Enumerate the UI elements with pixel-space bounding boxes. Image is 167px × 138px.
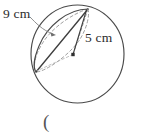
chord-length-label: 9 cm [3,7,30,21]
chord-label-arrowhead [51,33,57,37]
chord-label-leader-line [30,17,53,34]
trailing-parenthesis-text: ( [43,112,49,131]
center-to-edge-dashed [38,55,74,71]
sphere-center-dot [71,53,74,56]
sphere-outline-circle [31,5,124,103]
radius-length-label: 5 cm [85,31,112,45]
geometry-figure: 9 cm 5 cm ( [0,0,167,138]
